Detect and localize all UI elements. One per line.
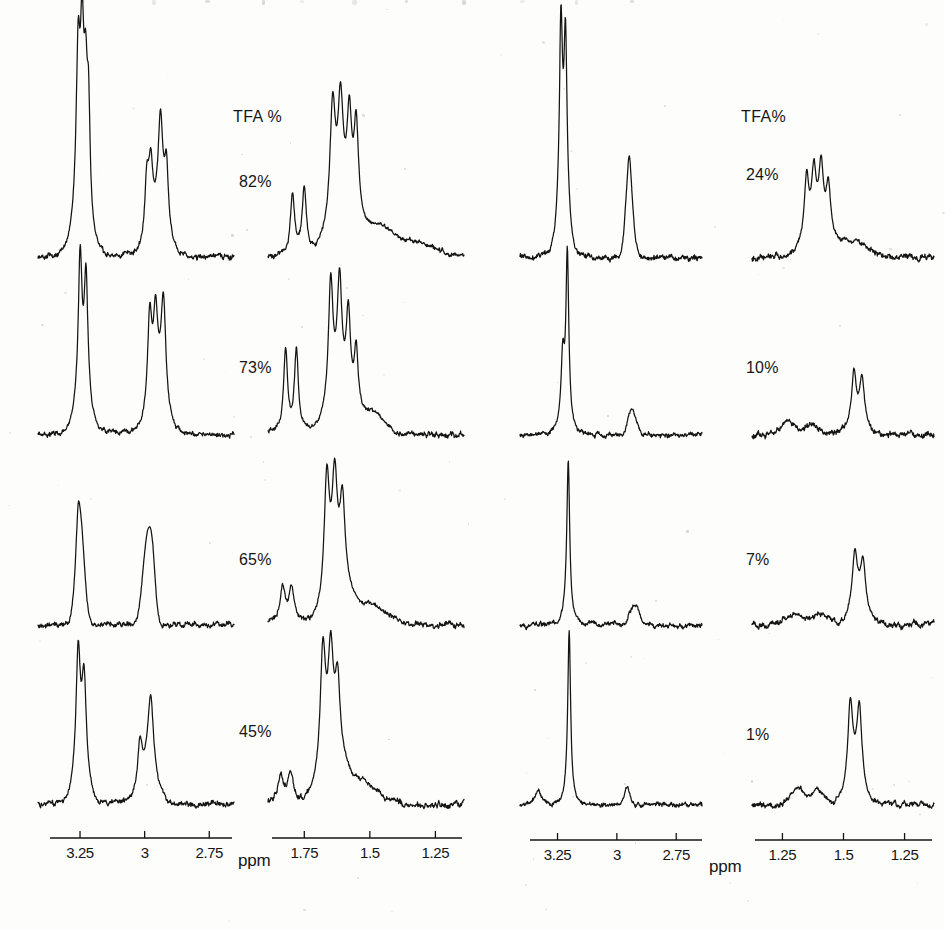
scan-speck: [729, 882, 731, 884]
scan-speck: [188, 279, 190, 281]
spectrum-trace: [752, 698, 934, 809]
axis-tick-label: 1.25: [891, 846, 919, 863]
scan-speck: [747, 900, 749, 902]
spectrum-panel-l2-upfield: [268, 295, 464, 447]
scan-speck: [917, 882, 918, 883]
axis-tick-label: 1.75: [290, 844, 318, 861]
scan-speck: [630, 656, 632, 658]
scan-speck: [167, 77, 168, 78]
spectrum-trace: [38, 0, 234, 260]
scan-speck: [899, 114, 901, 116]
spectrum-panel-r4-upfield: [752, 705, 934, 817]
axis-tick-labels: 3.2532.75: [50, 844, 232, 866]
bleed-glyph-fragment: [630, 0, 634, 3]
scan-speck: [288, 278, 290, 280]
scan-speck: [9, 432, 11, 434]
bleed-glyph-fragment: [520, 0, 525, 3]
scan-speck: [534, 689, 536, 691]
scan-speck: [942, 212, 944, 214]
page-bleed-artifact: [0, 0, 944, 14]
scan-speck: [241, 154, 243, 156]
spectrum-trace: [752, 549, 934, 630]
scan-speck: [839, 325, 841, 327]
axis-tick-label: 3.25: [66, 844, 94, 861]
scan-speck: [264, 479, 266, 481]
spectrum-panel-l3-downfield: [38, 505, 234, 637]
scan-speck: [263, 461, 265, 463]
spectrum-trace: [520, 5, 702, 262]
axis-tick-label: 1.25: [422, 844, 450, 861]
spectrum-trace: [38, 245, 234, 439]
scan-speck: [817, 33, 820, 36]
scan-speck: [723, 753, 724, 754]
tfa-value-left-1: 73%: [239, 359, 272, 377]
spectrum-panel-l4-upfield: [268, 675, 464, 817]
scan-speck: [870, 248, 872, 250]
scan-speck: [290, 142, 291, 143]
axis-tick-labels: 3.2532.75: [530, 846, 702, 868]
axis-left-upfield: 1.751.51.25: [272, 830, 462, 848]
tfa-value-left-0: 82%: [239, 173, 272, 191]
scan-speck: [908, 781, 909, 782]
scan-speck: [303, 909, 305, 911]
axis-tick-label: 2.75: [662, 846, 690, 863]
bleed-glyph-fragment: [300, 0, 304, 3]
scan-speck: [525, 884, 527, 886]
scan-speck: [404, 168, 406, 170]
tfa-header-left: TFA %: [233, 108, 282, 126]
axis-tick-label: 2.75: [195, 844, 223, 861]
scan-speck: [542, 41, 544, 43]
scan-speck: [782, 267, 784, 269]
spectrum-panel-r2-upfield: [752, 345, 934, 447]
tfa-value-right-1: 10%: [746, 359, 779, 377]
axis-tick-label: 3: [141, 844, 149, 861]
scan-speck: [504, 498, 506, 500]
axis-tick-label: 1.5: [360, 844, 380, 861]
bleed-glyph-fragment: [262, 0, 265, 5]
spectrum-trace: [268, 458, 464, 629]
axis-tick-label: 3: [613, 846, 621, 863]
spectrum-panel-l1-upfield: [268, 118, 464, 270]
scan-speck: [362, 114, 365, 117]
scan-speck: [386, 9, 387, 10]
spectrum-trace: [520, 246, 702, 438]
tfa-value-left-2: 65%: [239, 551, 272, 569]
scan-speck: [557, 382, 558, 383]
scan-speck: [250, 436, 252, 438]
scan-speck: [570, 150, 572, 152]
spectrum-trace: [38, 501, 234, 628]
bleed-glyph-fragment: [352, 0, 357, 5]
spectrum-panel-l2-downfield: [38, 285, 234, 447]
scan-speck: [751, 780, 753, 782]
spectrum-panel-l1-downfield: [38, 98, 234, 270]
scan-speck: [758, 274, 759, 275]
scan-speck: [209, 542, 211, 544]
bleed-glyph-fragment: [205, 0, 210, 3]
spectrum-panel-l3-upfield: [268, 490, 464, 637]
scan-speck: [346, 287, 348, 289]
scan-speck: [64, 292, 67, 295]
scan-speck: [398, 489, 400, 491]
ppm-label-right: ppm: [709, 857, 741, 877]
spectrum-trace: [520, 461, 702, 630]
tfa-value-left-3: 45%: [239, 723, 272, 741]
axis-tick-label: 3.25: [544, 846, 572, 863]
spectrum-trace: [520, 631, 702, 808]
scan-speck: [357, 877, 359, 879]
scan-speck: [39, 640, 41, 642]
scan-speck: [228, 920, 230, 922]
scan-speck: [468, 523, 470, 525]
spectrum-panel-r3-downfield: [520, 475, 702, 637]
spectrum-panel-l4-downfield: [38, 675, 234, 817]
tfa-value-right-0: 24%: [746, 166, 779, 184]
scan-speck: [383, 374, 385, 376]
axis-tick-label: 1.5: [834, 846, 854, 863]
spectrum-panel-r2-downfield: [520, 275, 702, 447]
scan-speck: [132, 107, 134, 109]
axis-tick-label: 1.25: [769, 846, 797, 863]
axis-tick-labels: 1.751.51.25: [272, 844, 462, 866]
bleed-glyph-fragment: [462, 0, 466, 5]
scan-speck: [585, 662, 587, 664]
scan-speck: [931, 677, 932, 678]
